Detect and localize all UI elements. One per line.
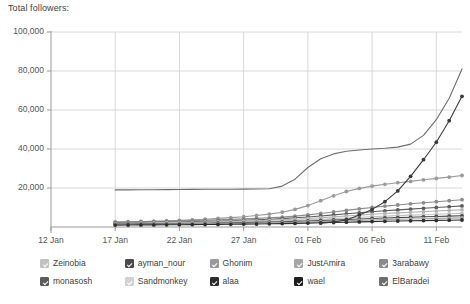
- series-line: [115, 69, 462, 190]
- data-point: [422, 201, 426, 205]
- data-point: [242, 222, 246, 226]
- legend-item-sandmonkey[interactable]: Sandmonkey: [125, 276, 210, 286]
- data-point: [422, 178, 426, 182]
- legend-item-3arabawy[interactable]: 3arabawy: [379, 258, 464, 268]
- legend-item-justamira[interactable]: JustAmira: [294, 258, 379, 268]
- x-tick-label: 17 Jan: [90, 235, 140, 245]
- x-tick-label: 12 Jan: [26, 235, 76, 245]
- checkbox-icon[interactable]: [210, 277, 219, 286]
- checkbox-icon[interactable]: [379, 277, 388, 286]
- data-point: [293, 208, 297, 212]
- data-point: [178, 223, 182, 227]
- data-point: [319, 199, 323, 203]
- data-point: [383, 204, 387, 208]
- data-point: [255, 222, 259, 226]
- legend-item-label: Ghonim: [223, 258, 253, 268]
- x-tick-label: 22 Jan: [154, 235, 204, 245]
- x-tick-label: 06 Feb: [347, 235, 397, 245]
- data-point: [267, 212, 271, 216]
- data-point: [460, 174, 464, 178]
- checkbox-icon[interactable]: [294, 259, 303, 268]
- data-point: [447, 175, 451, 179]
- data-point: [396, 189, 400, 193]
- data-point: [139, 223, 143, 227]
- data-point: [357, 213, 361, 217]
- data-point: [422, 158, 426, 162]
- checkbox-icon[interactable]: [379, 259, 388, 268]
- checkbox-icon[interactable]: [125, 259, 134, 268]
- data-point: [267, 222, 271, 226]
- data-point: [447, 218, 451, 222]
- data-point: [422, 219, 426, 223]
- data-point: [216, 223, 220, 227]
- legend-item-elbaradei[interactable]: ElBaradei: [379, 276, 464, 286]
- data-point: [306, 204, 310, 208]
- checkbox-icon[interactable]: [294, 277, 303, 286]
- data-point: [396, 219, 400, 223]
- legend-item-ayman_nour[interactable]: ayman_nour: [125, 258, 210, 268]
- data-point: [460, 94, 464, 98]
- data-point: [203, 223, 207, 227]
- grid-lines: [51, 32, 462, 227]
- data-point: [383, 200, 387, 204]
- data-point: [332, 194, 336, 198]
- data-point: [357, 220, 361, 224]
- legend-item-alaa[interactable]: alaa: [210, 276, 295, 286]
- series-line: [321, 96, 462, 223]
- legend-item-monasosh[interactable]: monasosh: [40, 276, 125, 286]
- checkbox-icon[interactable]: [125, 277, 134, 286]
- data-point: [306, 221, 310, 225]
- data-point: [460, 204, 464, 208]
- data-point: [434, 200, 438, 204]
- y-tick-label: 40,000: [18, 143, 44, 153]
- legend-item-zeinobia[interactable]: Zeinobia: [40, 258, 125, 268]
- data-point: [345, 218, 349, 222]
- checkbox-icon[interactable]: [210, 259, 219, 268]
- data-point: [447, 119, 451, 123]
- x-tick-label: 27 Jan: [219, 235, 269, 245]
- legend-item-ghonim[interactable]: Ghonim: [210, 258, 295, 268]
- series-elbaradei: [115, 69, 462, 190]
- data-point: [409, 202, 413, 206]
- data-point: [396, 203, 400, 207]
- data-point: [434, 219, 438, 223]
- data-point: [370, 184, 374, 188]
- data-point: [293, 222, 297, 226]
- data-point: [396, 181, 400, 185]
- y-tick-label: 100,000: [13, 26, 44, 36]
- data-point: [345, 190, 349, 194]
- legend-item-label: JustAmira: [307, 258, 345, 268]
- legend: Zeinobiaayman_nourGhonimJustAmira3arabaw…: [40, 254, 464, 290]
- legend-item-wael[interactable]: wael: [294, 276, 379, 286]
- checkbox-icon[interactable]: [40, 277, 49, 286]
- data-point: [434, 206, 438, 210]
- data-point: [460, 198, 464, 202]
- y-tick-label: 80,000: [18, 65, 44, 75]
- data-point: [460, 218, 464, 222]
- data-point: [447, 199, 451, 203]
- legend-item-label: ElBaradei: [392, 276, 429, 286]
- legend-item-label: alaa: [223, 276, 239, 286]
- data-point: [280, 210, 284, 214]
- data-point: [370, 220, 374, 224]
- data-point: [332, 220, 336, 224]
- data-point: [383, 182, 387, 186]
- data-point: [383, 219, 387, 223]
- legend-item-label: Sandmonkey: [138, 276, 188, 286]
- series-lines: [113, 69, 464, 227]
- chart-page: Total followers: 20,00040,00060,00080,00…: [0, 0, 470, 304]
- x-tick-label: 01 Feb: [283, 235, 333, 245]
- data-point: [434, 177, 438, 181]
- data-point: [422, 206, 426, 210]
- x-tick-label: 11 Feb: [411, 235, 461, 245]
- legend-item-label: wael: [307, 276, 324, 286]
- data-point: [357, 207, 361, 211]
- checkbox-icon[interactable]: [40, 259, 49, 268]
- axis-lines: [47, 31, 462, 233]
- data-point: [409, 219, 413, 223]
- legend-item-label: monasosh: [53, 276, 92, 286]
- data-point: [447, 209, 451, 213]
- data-point: [345, 209, 349, 213]
- data-point: [190, 223, 194, 227]
- data-point: [370, 208, 374, 212]
